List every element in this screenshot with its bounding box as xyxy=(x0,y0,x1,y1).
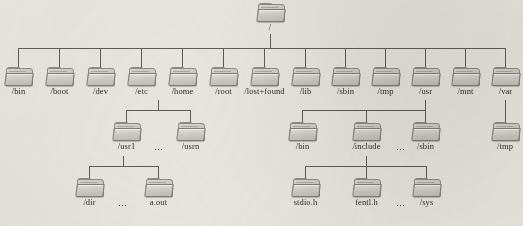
folder-icon xyxy=(178,123,203,140)
node-label-var-tmp: /tmp xyxy=(487,141,523,151)
node-label-dev: /dev xyxy=(82,86,119,96)
connector-usr1-bus xyxy=(89,166,158,167)
node-usr1[interactable]: /usr1 xyxy=(108,123,145,151)
node-etc[interactable]: /etc xyxy=(123,68,160,96)
node-label-sbin: /sbin xyxy=(328,86,363,96)
node-label-stdio-h: stdio.h xyxy=(285,197,326,207)
node-label-root-dir: /root xyxy=(205,86,242,96)
node-mnt[interactable]: /mnt xyxy=(448,68,483,96)
node-bin[interactable]: /bin xyxy=(0,68,37,96)
connector-level1-drop-3 xyxy=(141,48,142,68)
node-label-lost-found: /lost+found xyxy=(238,86,291,96)
connector-home-bus xyxy=(126,110,191,111)
node-label-tmp: /tmp xyxy=(368,86,403,96)
node-label-root: / xyxy=(250,22,290,32)
node-label-bin: /bin xyxy=(0,86,37,96)
folder-icon xyxy=(413,68,438,85)
connector-level1-drop-6 xyxy=(264,48,265,68)
folder-icon xyxy=(146,179,171,196)
node-label-sys: /sys xyxy=(408,197,445,207)
node-label-usr-bin: /bin xyxy=(284,141,321,151)
node-root[interactable]: / xyxy=(250,4,290,32)
folder-icon xyxy=(252,68,277,85)
connector-level1-drop-0 xyxy=(18,48,19,68)
node-usr-sbin[interactable]: /sbin xyxy=(407,123,444,151)
folder-icon xyxy=(493,123,518,140)
node-dev[interactable]: /dev xyxy=(82,68,119,96)
node-label-lib: /lib xyxy=(288,86,323,96)
node-label-dir: /dir xyxy=(71,197,108,207)
connector-level1-drop-5 xyxy=(223,48,224,68)
folder-icon xyxy=(413,123,438,140)
node-usr-bin[interactable]: /bin xyxy=(284,123,321,151)
folder-icon xyxy=(373,68,398,85)
node-stdio-h[interactable]: stdio.h xyxy=(285,179,326,207)
node-label-fentl-h: fentl.h xyxy=(346,197,387,207)
node-usr[interactable]: /usr xyxy=(408,68,443,96)
folder-icon xyxy=(77,179,102,196)
node-lib[interactable]: /lib xyxy=(288,68,323,96)
folder-icon xyxy=(290,123,315,140)
folder-icon xyxy=(453,68,478,85)
node-label-etc: /etc xyxy=(123,86,160,96)
connector-home-stem xyxy=(158,100,159,110)
folder-icon xyxy=(6,68,31,85)
node-usrn[interactable]: /usrn xyxy=(172,123,209,151)
folder-icon xyxy=(414,179,439,196)
node-label-usr1: /usr1 xyxy=(108,141,145,151)
folder-icon xyxy=(354,179,379,196)
connector-level1-drop-9 xyxy=(385,48,386,68)
node-root-dir[interactable]: /root xyxy=(205,68,242,96)
folder-icon xyxy=(333,68,358,85)
node-a-out[interactable]: a.out xyxy=(140,179,177,207)
connector-level1-drop-10 xyxy=(425,48,426,68)
node-var[interactable]: /var xyxy=(488,68,523,96)
folder-icon xyxy=(493,68,518,85)
filesystem-tree-diagram: / /bin /boot /dev /etc xyxy=(0,0,523,226)
folder-icon xyxy=(129,68,154,85)
connector-usr1-stem xyxy=(123,156,124,166)
connector-level1-drop-8 xyxy=(345,48,346,68)
connector-level1-drop-4 xyxy=(182,48,183,68)
node-dir[interactable]: /dir xyxy=(71,179,108,207)
folder-icon xyxy=(258,4,283,21)
connector-usr-stem xyxy=(425,100,426,110)
ellipsis-usr1-children: ⋯ xyxy=(114,201,132,211)
node-sys[interactable]: /sys xyxy=(408,179,445,207)
connector-level1-bus xyxy=(18,48,505,49)
connector-root-stem xyxy=(270,34,271,48)
connector-usr-bus xyxy=(302,110,426,111)
node-usr-include[interactable]: /include xyxy=(345,123,388,151)
folder-icon xyxy=(170,68,195,85)
connector-include-stem xyxy=(366,156,367,166)
folder-icon xyxy=(293,179,318,196)
node-label-var: /var xyxy=(488,86,523,96)
folder-icon xyxy=(211,68,236,85)
node-label-usr-include: /include xyxy=(345,141,388,151)
node-home[interactable]: /home xyxy=(164,68,201,96)
node-label-usr: /usr xyxy=(408,86,443,96)
node-label-home: /home xyxy=(164,86,201,96)
connector-level1-drop-2 xyxy=(100,48,101,68)
connector-level1-drop-7 xyxy=(305,48,306,68)
connector-var-stem xyxy=(505,100,506,123)
node-var-tmp[interactable]: /tmp xyxy=(487,123,523,151)
connector-level1-drop-12 xyxy=(505,48,506,68)
folder-icon xyxy=(354,123,379,140)
folder-icon xyxy=(293,68,318,85)
connector-level1-drop-1 xyxy=(59,48,60,68)
node-sbin[interactable]: /sbin xyxy=(328,68,363,96)
node-label-a-out: a.out xyxy=(140,197,177,207)
folder-icon xyxy=(114,123,139,140)
ellipsis-home-children: ⋯ xyxy=(150,145,168,155)
node-label-boot: /boot xyxy=(41,86,78,96)
folder-icon xyxy=(47,68,72,85)
node-label-usr-sbin: /sbin xyxy=(407,141,444,151)
node-label-usrn: /usrn xyxy=(172,141,209,151)
node-tmp[interactable]: /tmp xyxy=(368,68,403,96)
connector-level1-drop-11 xyxy=(465,48,466,68)
node-lost-found[interactable]: /lost+found xyxy=(238,68,291,96)
node-fentl-h[interactable]: fentl.h xyxy=(346,179,387,207)
node-label-mnt: /mnt xyxy=(448,86,483,96)
node-boot[interactable]: /boot xyxy=(41,68,78,96)
